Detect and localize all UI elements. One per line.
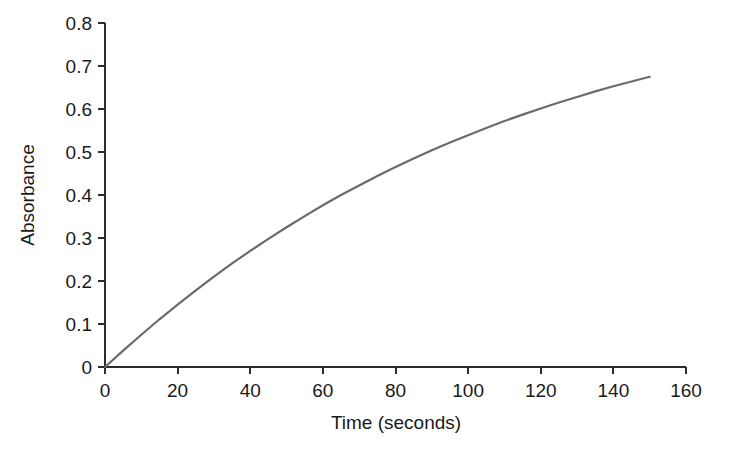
y-tick-label: 0.3 <box>66 228 92 249</box>
chart-background <box>0 0 743 459</box>
x-tick-label: 60 <box>312 380 333 401</box>
x-tick-label: 100 <box>452 380 484 401</box>
y-tick-label: 0.5 <box>66 142 92 163</box>
x-tick-label: 40 <box>240 380 261 401</box>
x-tick-label: 0 <box>100 380 111 401</box>
x-axis-title: Time (seconds) <box>331 412 461 433</box>
y-tick-label: 0 <box>81 357 92 378</box>
y-tick-label: 0.4 <box>66 185 93 206</box>
y-tick-label: 0.7 <box>66 56 92 77</box>
x-tick-label: 20 <box>167 380 188 401</box>
y-tick-label: 0.8 <box>66 13 92 34</box>
x-tick-label: 140 <box>598 380 630 401</box>
absorbance-vs-time-chart: 00.10.20.30.40.50.60.70.8 Absorbance 020… <box>0 0 743 459</box>
x-tick-label: 120 <box>525 380 557 401</box>
y-axis-tick-labels: 00.10.20.30.40.50.60.70.8 <box>66 13 93 378</box>
y-tick-label: 0.1 <box>66 314 92 335</box>
x-tick-label: 160 <box>670 380 702 401</box>
chart-figure: 00.10.20.30.40.50.60.70.8 Absorbance 020… <box>0 0 743 459</box>
y-tick-label: 0.6 <box>66 99 92 120</box>
x-tick-label: 80 <box>385 380 406 401</box>
y-tick-label: 0.2 <box>66 271 92 292</box>
y-axis-title: Absorbance <box>17 144 38 245</box>
